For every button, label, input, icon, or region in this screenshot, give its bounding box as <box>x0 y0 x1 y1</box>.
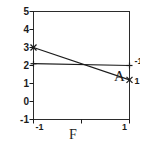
y-tick-label: 5 <box>3 7 29 17</box>
series-end-label: 1 <box>135 77 140 86</box>
y-axis-labels: -1012345 <box>0 0 29 150</box>
y-tick-label: 4 <box>3 25 29 35</box>
y-tick-label: 0 <box>3 97 29 107</box>
x-axis-title: F <box>62 128 84 142</box>
series-variable-label: A <box>114 69 125 84</box>
x-tick-label: 1 <box>114 122 136 132</box>
y-tick-label: 1 <box>3 79 29 89</box>
cross-marker <box>127 77 133 83</box>
x-tick-label: -1 <box>29 122 51 132</box>
series-end-label: -1 <box>135 57 141 66</box>
y-tick-label: 3 <box>3 43 29 53</box>
interaction-plot: -1012345 -1 1 F -1 1 A <box>0 0 140 150</box>
y-tick-label: 2 <box>3 61 29 71</box>
y-tick-label: -1 <box>3 115 29 125</box>
plus-marker <box>127 63 133 69</box>
